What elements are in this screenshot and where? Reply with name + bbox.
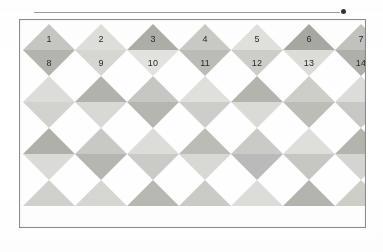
diamond-lower-triangle-r2-c2	[75, 102, 127, 128]
triangle-shape	[283, 180, 335, 206]
diamond-lower-triangle-r2-c6	[283, 102, 335, 128]
tile-number-label: 11	[179, 59, 231, 68]
diamond-lower-triangle-r3-c1	[23, 154, 75, 180]
triangle-shape	[75, 154, 127, 180]
diamond-lower-triangle-r1-c3: 10	[127, 50, 179, 76]
diamond-upper-triangle-r2-c3	[127, 76, 179, 102]
triangle-shape	[231, 76, 283, 102]
diamond-upper-triangle-r1-c7: 7	[335, 24, 366, 50]
diamond-lower-triangle-r3-c6	[283, 154, 335, 180]
diamond-upper-triangle-r4-c1	[23, 180, 75, 206]
tile-number-label: 5	[231, 35, 283, 44]
triangle-shape	[127, 128, 179, 154]
diamond-upper-triangle-r1-c5: 5	[231, 24, 283, 50]
diamond-lower-triangle-r2-c7	[335, 102, 366, 128]
triangle-shape	[23, 76, 75, 102]
triangle-shape	[231, 128, 283, 154]
diamond-tiling-grid: 1829310411512613714	[23, 24, 364, 225]
triangle-shape	[179, 102, 231, 128]
diamond-upper-triangle-r4-c6	[283, 180, 335, 206]
triangle-shape	[23, 128, 75, 154]
diamond-upper-triangle-r1-c2: 2	[75, 24, 127, 50]
tile-number-label: 10	[127, 59, 179, 68]
triangle-shape	[75, 180, 127, 206]
tile-number-label: 3	[127, 35, 179, 44]
diamond-upper-triangle-r4-c3	[127, 180, 179, 206]
tile-number-label: 8	[23, 59, 75, 68]
triangle-shape	[335, 102, 366, 128]
triangle-shape	[127, 102, 179, 128]
diamond-lower-triangle-r3-c7	[335, 154, 366, 180]
tile-number-label: 2	[75, 35, 127, 44]
diamond-lower-triangle-r1-c2: 9	[75, 50, 127, 76]
triangle-shape	[23, 180, 75, 206]
tile-number-label: 14	[335, 59, 366, 68]
diamond-upper-triangle-r4-c4	[179, 180, 231, 206]
diamond-lower-triangle-r1-c7: 14	[335, 50, 366, 76]
diamond-upper-triangle-r3-c7	[335, 128, 366, 154]
triangle-shape	[231, 180, 283, 206]
arrow-head-icon	[341, 9, 346, 14]
triangle-shape	[75, 102, 127, 128]
triangle-shape	[335, 76, 366, 102]
diamond-lower-triangle-r3-c5	[231, 154, 283, 180]
diamond-upper-triangle-r3-c1	[23, 128, 75, 154]
diamond-upper-triangle-r2-c6	[283, 76, 335, 102]
tile-number-label: 1	[23, 35, 75, 44]
diamond-lower-triangle-r1-c6: 13	[283, 50, 335, 76]
diamond-upper-triangle-r3-c3	[127, 128, 179, 154]
triangle-shape	[283, 154, 335, 180]
diamond-upper-triangle-r3-c2	[75, 128, 127, 154]
triangle-shape	[179, 154, 231, 180]
diamond-upper-triangle-r3-c4	[179, 128, 231, 154]
diamond-upper-triangle-r1-c1: 1	[23, 24, 75, 50]
diamond-upper-triangle-r4-c7	[335, 180, 366, 206]
diamond-lower-triangle-r2-c4	[179, 102, 231, 128]
tile-number-label: 6	[283, 35, 335, 44]
diamond-upper-triangle-r3-c5	[231, 128, 283, 154]
triangle-shape	[231, 102, 283, 128]
tile-number-label: 12	[231, 59, 283, 68]
triangle-shape	[75, 128, 127, 154]
diamond-lower-triangle-r1-c4: 11	[179, 50, 231, 76]
triangle-shape	[23, 154, 75, 180]
diamond-lower-triangle-r2-c5	[231, 102, 283, 128]
triangle-shape	[179, 128, 231, 154]
triangle-shape	[283, 128, 335, 154]
diamond-lower-triangle-r1-c5: 12	[231, 50, 283, 76]
triangle-shape	[335, 180, 366, 206]
triangle-shape	[335, 128, 366, 154]
diamond-lower-triangle-r1-c1: 8	[23, 50, 75, 76]
diamond-upper-triangle-r2-c7	[335, 76, 366, 102]
triangle-shape	[283, 102, 335, 128]
triangle-shape	[335, 154, 366, 180]
triangle-shape	[127, 76, 179, 102]
diamond-upper-triangle-r1-c6: 6	[283, 24, 335, 50]
tile-number-label: 7	[335, 35, 366, 44]
triangle-shape	[127, 180, 179, 206]
triangle-shape	[283, 76, 335, 102]
diamond-lower-triangle-r2-c3	[127, 102, 179, 128]
triangle-shape	[179, 180, 231, 206]
diamond-lower-triangle-r2-c1	[23, 102, 75, 128]
diamond-lower-triangle-r3-c2	[75, 154, 127, 180]
diamond-upper-triangle-r4-c2	[75, 180, 127, 206]
diamond-lower-triangle-r3-c4	[179, 154, 231, 180]
arrow-line	[34, 12, 340, 13]
triangle-shape	[75, 76, 127, 102]
triangle-shape	[127, 154, 179, 180]
diamond-lower-triangle-r3-c3	[127, 154, 179, 180]
diamond-upper-triangle-r1-c4: 4	[179, 24, 231, 50]
diamond-upper-triangle-r3-c6	[283, 128, 335, 154]
triangle-shape	[231, 154, 283, 180]
diamond-upper-triangle-r2-c1	[23, 76, 75, 102]
tile-number-label: 13	[283, 59, 335, 68]
diamond-upper-triangle-r2-c5	[231, 76, 283, 102]
horizontal-arrow	[34, 8, 346, 18]
diamond-upper-triangle-r4-c5	[231, 180, 283, 206]
tile-number-label: 9	[75, 59, 127, 68]
tiled-diamond-figure: 1829310411512613714	[0, 0, 383, 252]
triangle-shape	[179, 76, 231, 102]
diamond-upper-triangle-r1-c3: 3	[127, 24, 179, 50]
figure-frame: 1829310411512613714	[19, 19, 366, 228]
